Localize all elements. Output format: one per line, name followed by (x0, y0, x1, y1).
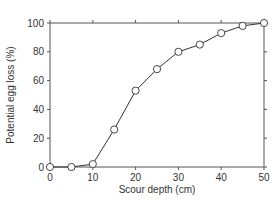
data-point-marker (132, 87, 139, 94)
y-axis-label: Potential egg loss (%) (5, 46, 16, 143)
data-point-marker (218, 29, 225, 36)
y-tick-label: 80 (33, 46, 45, 57)
data-series (46, 19, 267, 170)
data-point-marker (46, 163, 53, 170)
x-tick-label: 20 (130, 172, 142, 183)
y-tick-label: 60 (33, 75, 45, 86)
line-chart: 02040608010001020304050 Scour depth (cm)… (0, 0, 280, 208)
axes (50, 23, 264, 167)
ticks: 02040608010001020304050 (27, 18, 270, 184)
data-point-marker (111, 126, 118, 133)
data-point-marker (196, 41, 203, 48)
data-point-marker (68, 163, 75, 170)
data-point-marker (153, 65, 160, 72)
x-tick-label: 0 (47, 172, 53, 183)
data-point-marker (175, 48, 182, 55)
y-tick-label: 40 (33, 104, 45, 115)
x-tick-label: 40 (216, 172, 228, 183)
x-tick-label: 10 (87, 172, 99, 183)
y-tick-label: 20 (33, 133, 45, 144)
data-point-marker (89, 161, 96, 168)
series-line (50, 23, 264, 167)
x-tick-label: 30 (173, 172, 185, 183)
x-tick-label: 50 (258, 172, 270, 183)
data-point-marker (260, 19, 267, 26)
y-tick-label: 0 (38, 162, 44, 173)
x-axis-label: Scour depth (cm) (119, 184, 196, 195)
chart-container: 02040608010001020304050 Scour depth (cm)… (0, 0, 280, 208)
data-point-marker (239, 22, 246, 29)
y-tick-label: 100 (27, 18, 44, 29)
